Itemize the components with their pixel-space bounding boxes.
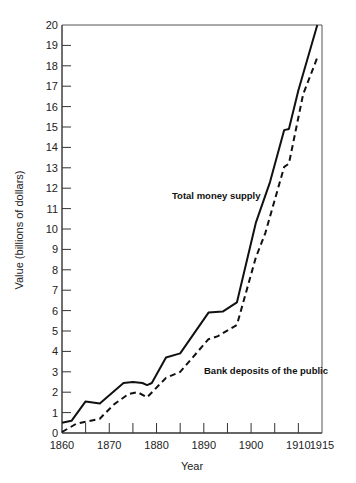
y-tick-label: 18 (46, 60, 58, 72)
y-axis-title: Value (billions of dollars) (13, 170, 25, 289)
x-tick-label: 1900 (239, 439, 263, 451)
total-money-supply-label: Total money supply (172, 190, 261, 201)
total-money-supply-line (62, 25, 317, 423)
y-tick-label: 4 (52, 345, 58, 357)
x-tick-label: 1915 (310, 439, 334, 451)
y-tick-label: 16 (46, 101, 58, 113)
y-tick-label: 12 (46, 182, 58, 194)
x-tick-label: 1880 (144, 439, 168, 451)
y-tick-label: 11 (47, 203, 58, 215)
x-tick-label: 1910 (286, 439, 310, 451)
line-chart: 0123456789101112131415161718192018601870… (0, 0, 356, 483)
y-tick-label: 0 (52, 427, 58, 439)
y-tick-label: 15 (46, 121, 58, 133)
y-tick-label: 5 (52, 325, 58, 337)
x-tick-label: 1860 (50, 439, 74, 451)
y-tick-label: 10 (46, 223, 58, 235)
y-tick-label: 14 (46, 141, 58, 153)
series-labels: Total money supplyBank deposits of the p… (172, 190, 328, 376)
x-axis-title: Year (181, 460, 204, 472)
x-tick-label: 1890 (192, 439, 216, 451)
y-tick-label: 13 (46, 162, 58, 174)
y-tick-label: 20 (46, 19, 58, 31)
y-tick-label: 9 (52, 243, 58, 255)
axes: 0123456789101112131415161718192018601870… (46, 19, 334, 451)
y-tick-label: 6 (52, 305, 58, 317)
y-tick-label: 8 (52, 264, 58, 276)
y-tick-label: 2 (52, 386, 58, 398)
x-tick-label: 1870 (97, 439, 121, 451)
y-tick-label: 19 (46, 39, 58, 51)
bank-deposits-label: Bank deposits of the public (204, 365, 328, 376)
y-tick-label: 17 (46, 80, 58, 92)
y-tick-label: 1 (52, 407, 58, 419)
y-tick-label: 3 (52, 366, 58, 378)
y-tick-label: 7 (52, 284, 58, 296)
